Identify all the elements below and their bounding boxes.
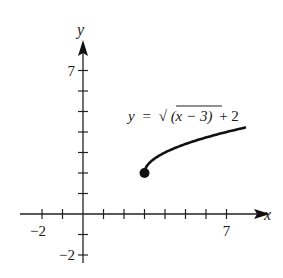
equation-tail: + 2 bbox=[219, 108, 239, 124]
start-point-marker bbox=[140, 168, 150, 178]
x-tick-label: −2 bbox=[30, 223, 46, 239]
equation-equals: = bbox=[142, 108, 150, 124]
tick-labels: −277−2 bbox=[30, 63, 231, 264]
svg-text:y = √ (x − 3: y = √ (x − 3) + 2 bbox=[126, 108, 239, 125]
y-tick-label: 7 bbox=[68, 63, 76, 79]
y-axis-label: y bbox=[75, 21, 85, 39]
radical-sign: √ bbox=[159, 108, 168, 124]
equation-lhs: y bbox=[126, 108, 135, 124]
function-curve bbox=[145, 128, 245, 173]
equation-radical-content: (x − 3) bbox=[171, 108, 213, 125]
x-tick-label: 7 bbox=[223, 223, 231, 239]
y-tick-label: −2 bbox=[59, 247, 75, 263]
x-axis-label: x bbox=[263, 206, 271, 223]
function-graph: x y −277−2 y = √ (x − 3) + 2 bbox=[0, 0, 283, 278]
equation-label: y = √ (x − 3) + 2 bbox=[126, 106, 239, 125]
